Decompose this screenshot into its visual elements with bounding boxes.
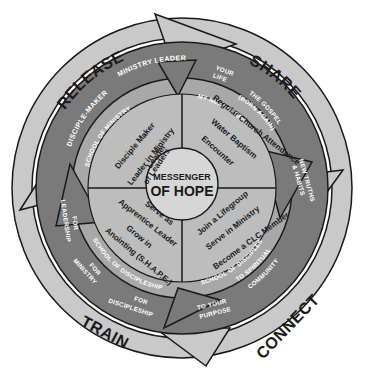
discipleship-cycle-diagram: MESSENGER OF HOPE RELEASE SHARE CONNECT … xyxy=(0,0,365,378)
center-line-2: OF HOPE xyxy=(150,183,213,199)
center-line-1: MESSENGER xyxy=(153,172,211,182)
